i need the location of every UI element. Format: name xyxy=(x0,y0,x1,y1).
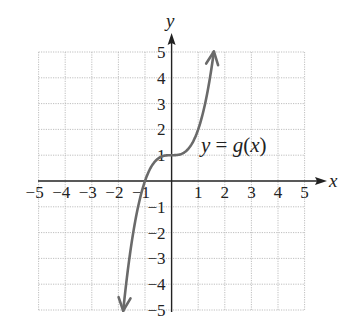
axes xyxy=(38,33,327,312)
x-axis-label: x xyxy=(328,170,338,191)
y-tick-label: −2 xyxy=(148,224,166,243)
y-tick-label: 5 xyxy=(157,43,166,62)
x-tick-label: 1 xyxy=(194,183,203,202)
x-tick-label: 5 xyxy=(300,183,309,202)
function-label: y = g(x) xyxy=(199,133,267,157)
y-axis-label: y xyxy=(164,10,175,31)
y-tick-label: 3 xyxy=(157,95,166,114)
x-tick-label: 3 xyxy=(247,183,256,202)
x-tick-label: −4 xyxy=(52,183,71,202)
x-tick-label: 4 xyxy=(274,183,283,202)
x-tick-label: 2 xyxy=(221,183,230,202)
y-tick-label: −1 xyxy=(148,198,166,217)
y-tick-label: −3 xyxy=(148,249,166,268)
x-tick-label: −3 xyxy=(79,183,97,202)
y-tick-label: 2 xyxy=(157,120,166,139)
x-tick-label: −2 xyxy=(105,183,123,202)
y-tick-label: −4 xyxy=(148,275,167,294)
y-tick-label: 4 xyxy=(157,69,166,88)
y-tick-label: −5 xyxy=(148,301,166,320)
function-graph: x y −5−4−3−2−112345 54321−1−2−3−4−5 y = … xyxy=(0,0,341,320)
x-tick-label: −5 xyxy=(26,183,44,202)
x-tick-labels: −5−4−3−2−112345 xyxy=(26,183,309,202)
